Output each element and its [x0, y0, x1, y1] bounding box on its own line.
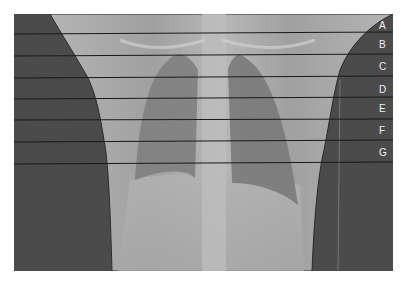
xray-figure: A B C D E F G: [14, 14, 393, 271]
level-label-d: D: [379, 84, 386, 95]
level-label-a: A: [379, 20, 386, 31]
level-label-c: C: [379, 61, 386, 72]
level-label-b: B: [379, 39, 386, 50]
level-label-e: E: [379, 103, 386, 114]
spine: [202, 14, 226, 271]
level-label-f: F: [379, 125, 385, 136]
level-label-g: G: [379, 147, 387, 158]
xray-image: A B C D E F G: [14, 14, 393, 271]
